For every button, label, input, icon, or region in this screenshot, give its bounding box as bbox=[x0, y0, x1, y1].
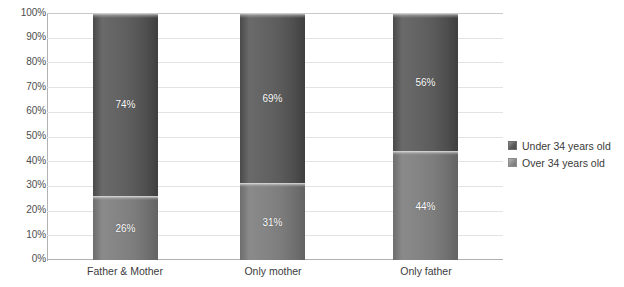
bar-segment-over-34[interactable]: 26% bbox=[93, 196, 158, 260]
y-tick-label-10: 10% bbox=[2, 230, 46, 240]
y-tick-label-0: 0% bbox=[2, 254, 46, 264]
bar-segment-over-34[interactable]: 31% bbox=[240, 183, 305, 260]
y-tick-label-100: 100% bbox=[2, 8, 46, 18]
legend-label-over-34: Over 34 years old bbox=[522, 157, 605, 169]
bar-segment-under-34[interactable]: 74% bbox=[93, 13, 158, 196]
y-tick-label-60: 60% bbox=[2, 106, 46, 116]
y-tick-label-50: 50% bbox=[2, 131, 46, 141]
y-tick-label-20: 20% bbox=[2, 205, 46, 215]
y-tick-label-80: 80% bbox=[2, 57, 46, 67]
bar-value-over-34: 44% bbox=[393, 200, 458, 211]
legend-swatch-icon-under-34 bbox=[508, 141, 517, 150]
y-tick-label-90: 90% bbox=[2, 32, 46, 42]
bar-value-under-34: 69% bbox=[240, 93, 305, 104]
bar-value-over-34: 31% bbox=[240, 216, 305, 227]
bar-only-father[interactable]: 56% 44% bbox=[393, 13, 458, 260]
stacked-bar-chart: 100% 90% 80% 70% 60% 50% 40% 30% 20% 10%… bbox=[0, 0, 624, 287]
legend-label-under-34: Under 34 years old bbox=[522, 140, 611, 152]
plot-area: 74% 26% 69% 31% 56% 44% bbox=[47, 13, 503, 260]
y-tick-label-40: 40% bbox=[2, 156, 46, 166]
bar-only-mother[interactable]: 69% 31% bbox=[240, 13, 305, 260]
y-tick-label-70: 70% bbox=[2, 82, 46, 92]
bar-value-over-34: 26% bbox=[93, 222, 158, 233]
legend-item-under-34[interactable]: Under 34 years old bbox=[508, 138, 622, 153]
x-category-label-only-mother: Only mother bbox=[193, 265, 353, 277]
x-category-label-father-and-mother: Father & Mother bbox=[45, 265, 205, 277]
bar-father-and-mother[interactable]: 74% 26% bbox=[93, 13, 158, 260]
bar-value-under-34: 56% bbox=[393, 77, 458, 88]
bar-segment-over-34[interactable]: 44% bbox=[393, 151, 458, 260]
bar-segment-under-34[interactable]: 56% bbox=[393, 13, 458, 151]
bar-segment-under-34[interactable]: 69% bbox=[240, 13, 305, 183]
y-tick-label-30: 30% bbox=[2, 180, 46, 190]
legend-swatch-icon-over-34 bbox=[508, 158, 517, 167]
legend-item-over-34[interactable]: Over 34 years old bbox=[508, 155, 622, 170]
chart-legend: Under 34 years old Over 34 years old bbox=[508, 138, 622, 172]
y-axis-label-group: 100% 90% 80% 70% 60% 50% 40% 30% 20% 10%… bbox=[0, 0, 46, 287]
x-category-label-only-father: Only father bbox=[346, 265, 506, 277]
bar-value-under-34: 74% bbox=[93, 99, 158, 110]
